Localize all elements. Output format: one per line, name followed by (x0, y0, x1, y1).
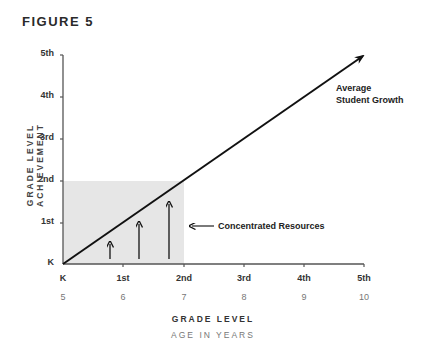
age-7: 7 (164, 292, 204, 302)
y-tick-5th: 5th (14, 48, 54, 58)
age-10: 10 (344, 292, 384, 302)
x-tick-k: K (43, 273, 83, 283)
average-growth-line (63, 56, 363, 264)
x-tick-1st: 1st (103, 273, 143, 283)
age-9: 9 (284, 292, 324, 302)
growth-annotation-line2: Student Growth (336, 94, 404, 106)
age-axis-label: AGE IN YEARS (133, 330, 293, 340)
y-axis-label: GRADE LEVEL ACHIEVEMENT (25, 85, 45, 245)
age-5: 5 (43, 292, 83, 302)
x-tick-5th: 5th (344, 273, 384, 283)
x-tick-3rd: 3rd (224, 273, 264, 283)
x-axis-label: GRADE LEVEL (133, 314, 293, 324)
resources-annotation: Concentrated Resources (218, 220, 325, 232)
age-6: 6 (103, 292, 143, 302)
x-tick-2nd: 2nd (164, 273, 204, 283)
growth-annotation: Average Student Growth (336, 82, 404, 106)
age-8: 8 (224, 292, 264, 302)
y-tick-k: K (14, 257, 54, 267)
growth-annotation-line1: Average (336, 82, 404, 94)
chart-plot (0, 0, 421, 358)
x-tick-4th: 4th (284, 273, 324, 283)
